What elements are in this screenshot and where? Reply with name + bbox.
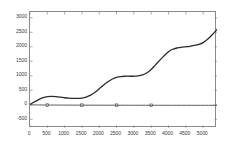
plot-svg <box>30 12 217 128</box>
y-tick-label: 500 <box>19 87 27 92</box>
axis-tick-marks <box>30 12 217 128</box>
x-tick-label: 2000 <box>93 131 104 136</box>
y-tick-label: 3000 <box>16 14 27 19</box>
series-line-baseline-reference <box>30 105 217 106</box>
x-axis-tick-labels: 0500100015002000250030003500400045005000 <box>29 131 216 143</box>
y-tick-label: 1000 <box>16 72 27 77</box>
x-tick-label: 1500 <box>75 131 86 136</box>
figure-canvas: -500050010001500200025003000 05001000150… <box>0 0 229 152</box>
x-tick-label: 2500 <box>110 131 121 136</box>
y-tick-label: -500 <box>17 116 27 121</box>
x-tick-label: 500 <box>42 131 50 136</box>
x-tick-label: 3500 <box>145 131 156 136</box>
plot-area <box>29 11 216 127</box>
x-tick-label: 3000 <box>127 131 138 136</box>
series-line-staircase-curve <box>30 29 217 104</box>
y-axis-tick-labels: -500050010001500200025003000 <box>0 0 27 152</box>
y-tick-label: 1500 <box>16 58 27 63</box>
y-tick-label: 2500 <box>16 29 27 34</box>
y-tick-label: 2000 <box>16 43 27 48</box>
x-tick-label: 5000 <box>197 131 208 136</box>
x-tick-label: 1000 <box>58 131 69 136</box>
data-series-group <box>30 29 217 106</box>
x-tick-label: 4500 <box>179 131 190 136</box>
x-tick-label: 0 <box>28 131 31 136</box>
x-tick-label: 4000 <box>162 131 173 136</box>
y-tick-label: 0 <box>24 101 27 106</box>
